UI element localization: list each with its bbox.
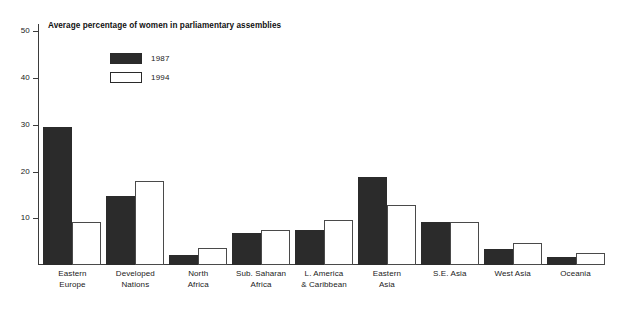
bar-1987 (106, 196, 135, 265)
category-label-line1: Eastern (58, 269, 86, 278)
bar-1994 (387, 205, 416, 265)
bar-1994 (450, 222, 479, 265)
bar-1994 (513, 243, 542, 265)
y-tick-10: 10 (0, 218, 38, 219)
bar-1994 (72, 222, 101, 265)
category-label-line1: L. America (305, 269, 344, 278)
bar-group (358, 22, 416, 265)
bar-group (547, 22, 605, 265)
bar-group (421, 22, 479, 265)
bar-group (106, 22, 164, 265)
y-tick-50: 50 (0, 31, 38, 32)
y-tick-40: 40 (0, 78, 38, 79)
y-tick-label: 50 (21, 25, 30, 36)
x-axis-category-labels: EasternEuropeDevelopedNationsNorthAfrica… (38, 268, 604, 298)
category-label: Oceania (533, 268, 619, 279)
category-label-line1: S.E. Asia (433, 269, 466, 278)
bar-1994 (576, 253, 605, 265)
bar-group (295, 22, 353, 265)
bar-group (484, 22, 542, 265)
bar-chart: 1020304050 Average percentage of women i… (0, 0, 625, 314)
y-tick-label: 30 (21, 119, 30, 130)
bar-1987 (232, 233, 261, 265)
y-tick-20: 20 (0, 172, 38, 173)
bar-1987 (295, 230, 324, 265)
bar-group (232, 22, 290, 265)
bar-1987 (547, 257, 576, 265)
y-tick-label: 20 (21, 166, 30, 177)
category-label-line2: Asia (344, 279, 430, 290)
bar-1994 (324, 220, 353, 265)
category-label-line1: Developed (116, 269, 155, 278)
bar-1994 (261, 230, 290, 265)
bar-1987 (358, 177, 387, 265)
bar-group (169, 22, 227, 265)
category-label-line1: Eastern (373, 269, 401, 278)
bar-1987 (484, 249, 513, 265)
bar-1994 (198, 248, 227, 265)
category-label-line1: Sub. Saharan (236, 269, 286, 278)
bar-1987 (43, 127, 72, 265)
y-tick-label: 40 (21, 72, 30, 83)
category-label-line1: Oceania (560, 269, 591, 278)
bar-1994 (135, 181, 164, 265)
bar-group (43, 22, 101, 265)
category-label-line1: North (188, 269, 208, 278)
category-label-line1: West Asia (494, 269, 530, 278)
bar-groups (38, 22, 604, 265)
y-tick-label: 10 (21, 212, 30, 223)
bar-1987 (421, 222, 450, 265)
y-tick-30: 30 (0, 125, 38, 126)
bar-1987 (169, 255, 198, 265)
